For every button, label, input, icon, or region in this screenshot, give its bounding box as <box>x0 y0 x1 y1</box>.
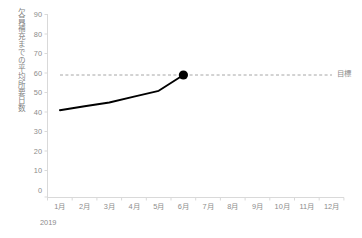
data-line-series <box>60 75 183 110</box>
chart-container: 欠員補充までの平均所要日数 90 80 70 60 50 40 30 20 10… <box>0 0 362 238</box>
x-tick-label-12: 12月 <box>317 203 347 211</box>
data-point-marker-june <box>179 70 188 79</box>
legend-item-target: 目標 <box>337 70 351 78</box>
x-axis-period-label: 2019 <box>40 219 56 227</box>
